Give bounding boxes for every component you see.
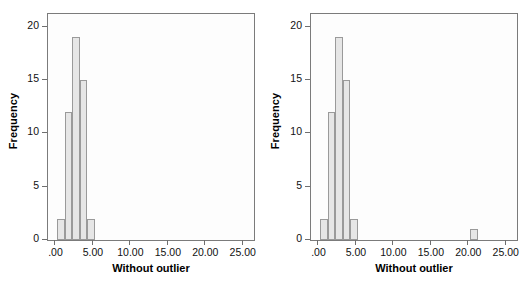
- x-axis-tick-label: 15.00: [155, 246, 181, 258]
- x-axis-tick-label: 10.00: [117, 246, 143, 258]
- histogram-bar: [80, 80, 87, 240]
- plot-area-left: [47, 13, 255, 241]
- histogram-bar: [343, 80, 350, 240]
- x-axis-tick-label: 5.00: [83, 246, 103, 258]
- y-axis-title-text: Frequency: [7, 92, 19, 149]
- histogram-figure: Frequency 05101520.005.0010.0015.0020.00…: [0, 0, 525, 285]
- y-axis-tick-label: 15: [290, 72, 302, 84]
- x-axis-tick-label: 10.00: [380, 246, 406, 258]
- plot-surface-left: [48, 14, 254, 240]
- histogram-bar: [72, 37, 79, 240]
- y-axis-tick-label: 20: [290, 19, 302, 31]
- histogram-bar: [335, 37, 342, 240]
- y-axis-tick-label: 20: [27, 19, 39, 31]
- y-axis-tick-label: 5: [296, 179, 302, 191]
- x-axis-tick-label: 20.00: [455, 246, 481, 258]
- plot-surface-right: [311, 14, 517, 240]
- y-axis-tick-label: 0: [296, 232, 302, 244]
- y-axis-title-left: Frequency: [4, 0, 22, 241]
- y-axis-tick-label: 0: [33, 232, 39, 244]
- histogram-bar: [470, 229, 477, 240]
- histogram-bar: [350, 219, 357, 240]
- x-axis-title-left: Without outlier: [47, 262, 255, 274]
- y-axis-tick-label: 10: [290, 125, 302, 137]
- y-axis-tick-label: 10: [27, 125, 39, 137]
- x-axis-tick-label: .00: [311, 246, 326, 258]
- histogram-bar: [57, 219, 64, 240]
- y-axis-title-right: Frequency: [266, 0, 284, 241]
- y-axis-tick-label: 5: [33, 179, 39, 191]
- histogram-bar: [87, 219, 94, 240]
- x-axis-tick-label: 25.00: [493, 246, 519, 258]
- y-axis-tick-label: 15: [27, 72, 39, 84]
- x-axis-title-right: Without outlier: [310, 262, 518, 274]
- x-axis-tick-label: 5.00: [346, 246, 366, 258]
- histogram-bar: [320, 219, 327, 240]
- histogram-bar: [328, 112, 335, 240]
- x-axis-tick-label: 20.00: [192, 246, 218, 258]
- histogram-panel-right: Frequency 05101520.005.0010.0015.0020.00…: [262, 0, 525, 285]
- x-axis-tick-label: .00: [48, 246, 63, 258]
- x-axis-tick-label: 15.00: [418, 246, 444, 258]
- histogram-bar: [65, 112, 72, 240]
- y-axis-title-text: Frequency: [269, 92, 281, 149]
- x-axis-tick-label: 25.00: [230, 246, 256, 258]
- histogram-panel-left: Frequency 05101520.005.0010.0015.0020.00…: [0, 0, 262, 285]
- plot-area-right: [310, 13, 518, 241]
